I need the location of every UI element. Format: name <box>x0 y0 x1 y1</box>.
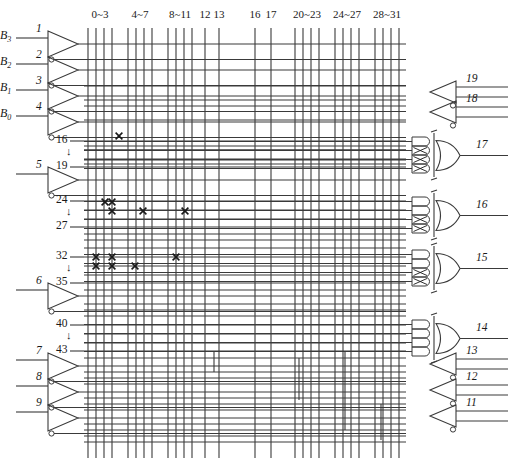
pin-number-1: 1 <box>36 22 42 34</box>
or-gate-14[interactable] <box>412 320 460 356</box>
input-var-3: B1 <box>0 80 11 96</box>
row-label-mid-1: ↓ <box>66 205 72 217</box>
output-pin-11: 11 <box>466 396 477 408</box>
or-tick-top-17 <box>431 130 437 132</box>
output-pin-12: 12 <box>466 370 478 382</box>
fuse-mark[interactable] <box>116 133 123 140</box>
input-var-1: B3 <box>0 28 11 44</box>
or-tick-top-15 <box>431 243 437 245</box>
pin-number-7: 7 <box>36 344 42 356</box>
row-label-top-3: 40 <box>56 317 68 329</box>
row-label-bot-2: 35 <box>56 275 68 287</box>
output-pin-17: 17 <box>476 138 488 150</box>
row-label-bot-1: 27 <box>56 219 68 231</box>
column-header-9: 28~31 <box>373 8 401 20</box>
column-header-2: 8~11 <box>169 8 191 20</box>
input-buffer-1[interactable] <box>48 31 78 62</box>
row-label-top-2: 32 <box>56 249 68 261</box>
output-pin-15: 15 <box>476 251 488 263</box>
column-header-4: 13 <box>214 8 225 20</box>
pin-number-5: 5 <box>36 158 42 170</box>
or-tick-bot-17 <box>431 178 437 180</box>
row-label-bot-0: 19 <box>56 159 68 171</box>
output-buffer-19[interactable] <box>430 81 456 108</box>
column-header-7: 20~23 <box>293 8 321 20</box>
column-header-3: 12 <box>200 8 211 20</box>
or-tick-top-14 <box>431 313 437 315</box>
column-header-8: 24~27 <box>333 8 361 20</box>
pin-number-4: 4 <box>36 100 42 112</box>
or-gate-15[interactable] <box>412 250 460 286</box>
row-label-top-0: 16 <box>56 133 68 145</box>
output-pin-18: 18 <box>466 92 478 104</box>
or-tick-bot-15 <box>431 291 437 293</box>
or-tick-bot-16 <box>431 238 437 240</box>
input-buffer-6[interactable] <box>48 283 78 314</box>
pin-number-9: 9 <box>36 396 42 408</box>
pin-number-2: 2 <box>36 48 42 60</box>
column-header-6: 17 <box>266 8 277 20</box>
pin-number-6: 6 <box>36 274 42 286</box>
or-tick-top-16 <box>431 190 437 192</box>
column-header-1: 4~7 <box>132 8 149 20</box>
column-header-0: 0~3 <box>92 8 109 20</box>
output-buffer-18[interactable] <box>430 101 456 128</box>
row-label-mid-2: ↓ <box>66 261 72 273</box>
input-var-2: B2 <box>0 54 11 70</box>
output-pin-19: 19 <box>466 72 478 84</box>
row-label-mid-0: ↓ <box>66 145 72 157</box>
input-buffer-7[interactable] <box>48 353 78 384</box>
pin-number-8: 8 <box>36 370 42 382</box>
output-pin-13: 13 <box>466 344 478 356</box>
column-header-5: 16 <box>250 8 261 20</box>
output-pin-14: 14 <box>476 321 488 333</box>
output-buffer-12[interactable] <box>430 379 456 406</box>
input-var-4: B0 <box>0 106 11 122</box>
output-pin-16: 16 <box>476 198 488 210</box>
pin-number-3: 3 <box>36 74 42 86</box>
row-label-top-1: 24 <box>56 193 68 205</box>
or-gate-17[interactable] <box>412 137 460 173</box>
wire-layer <box>0 0 508 465</box>
row-label-mid-3: ↓ <box>66 329 72 341</box>
or-gate-16[interactable] <box>412 197 460 233</box>
output-buffer-11[interactable] <box>430 405 456 432</box>
pla-diagram-canvas: 0~34~78~111213161720~2324~2728~311B32B23… <box>0 0 508 465</box>
row-label-bot-3: 43 <box>56 343 68 355</box>
